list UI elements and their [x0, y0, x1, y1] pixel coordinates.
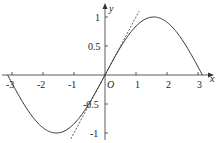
origin-label: O [107, 79, 114, 90]
x-tick-label: -1 [68, 79, 76, 90]
y-axis-arrow-icon [103, 3, 108, 9]
x-tick-label: 2 [166, 79, 171, 90]
x-tick-label: 3 [197, 79, 202, 90]
y-tick-label: -0.5 [83, 99, 99, 110]
y-tick-label: 0.5 [88, 41, 101, 52]
x-tick-label: 1 [135, 79, 140, 90]
x-tick-label: -3 [6, 79, 14, 90]
x-axis-label: x [209, 73, 215, 84]
y-tick-label: 1 [95, 12, 100, 23]
y-tick-label: -1 [90, 128, 98, 139]
chart: x y O -3 -2 -1 1 2 3 1 0.5 -0.5 -1 [0, 0, 220, 143]
y-axis-label: y [108, 3, 114, 14]
x-tick-label: -2 [37, 79, 45, 90]
